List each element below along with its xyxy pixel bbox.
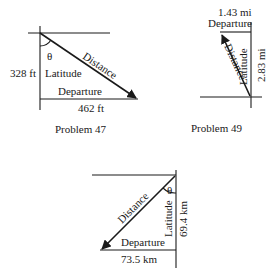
latitude-value: 328 ft <box>10 67 36 79</box>
departure-label: Departure <box>208 17 252 29</box>
departure-value: 73.5 km <box>121 253 158 265</box>
latitude-label: Latitude <box>45 67 82 79</box>
caption: Problem 47 <box>55 123 107 135</box>
diagram-third: θ Distance Latitude 69.4 km Departure 73… <box>92 170 189 268</box>
latitude-value: 69.4 km <box>177 201 189 238</box>
angle-label: θ <box>47 50 52 62</box>
diagram-problem-47: θ Distance Latitude Departure 328 ft 462… <box>10 26 138 135</box>
latitude-value: 2.83 mi <box>255 48 267 82</box>
departure-value: 462 ft <box>78 102 104 114</box>
diagram-canvas: θ Distance Latitude Departure 328 ft 462… <box>0 0 274 275</box>
caption: Problem 49 <box>191 122 243 134</box>
angle-arc <box>40 40 51 46</box>
departure-label: Departure <box>58 85 102 97</box>
departure-label: Departure <box>121 236 165 248</box>
distance-label: Distance <box>115 190 151 226</box>
angle-label: θ <box>167 184 172 196</box>
diagram-problem-49: 1.43 mi Departure Latitude 2.83 mi Dista… <box>191 6 267 134</box>
latitude-label: Latitude <box>162 200 174 237</box>
